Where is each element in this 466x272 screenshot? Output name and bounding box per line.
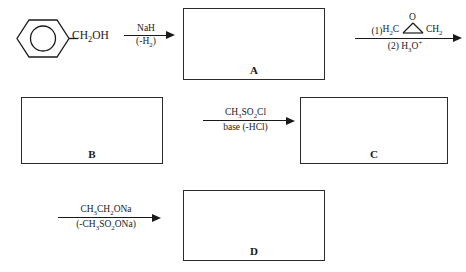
answer-box-d[interactable]: D bbox=[183, 190, 325, 261]
arrow-shaft-step-4 bbox=[355, 38, 455, 39]
epoxide-left-carbon-label: H2C bbox=[383, 25, 400, 37]
ethylene-oxide-icon: O H2C CH2 bbox=[387, 14, 439, 37]
answer-box-d-label: D bbox=[184, 245, 324, 257]
answer-box-c-label: C bbox=[301, 148, 447, 160]
reaction-arrow-step-4: (1) O H2C CH2 (2) H3O+ bbox=[355, 14, 455, 54]
benzyl-alcohol-structure: CH2OH bbox=[14, 17, 122, 61]
reagent-above-step-2: CH3SO2Cl bbox=[203, 107, 288, 120]
reaction-arrow-step-1: NaH (-H2) bbox=[124, 23, 168, 49]
reagent-above-step-3: CH3CH2ONa bbox=[58, 204, 154, 217]
answer-box-b[interactable]: B bbox=[21, 97, 163, 164]
reaction-scheme: CH2OH NaH (-H2) A (1) O H2C CH2 (2) H3O bbox=[0, 0, 466, 272]
benzene-ring-aromatic-circle-icon bbox=[14, 17, 74, 61]
reagent-below-step-1: (-H2) bbox=[124, 36, 168, 49]
answer-box-c[interactable]: C bbox=[300, 97, 448, 164]
reagent-below-step-4: (2) H3O+ bbox=[355, 39, 455, 55]
epoxide-right-carbon-label: CH2 bbox=[426, 25, 443, 37]
answer-box-a[interactable]: A bbox=[183, 8, 325, 80]
answer-box-a-label: A bbox=[184, 64, 324, 76]
step-number-one: (1) bbox=[371, 26, 382, 37]
arrow-shaft-step-2 bbox=[203, 120, 288, 121]
reagent-above-step-4: (1) O H2C CH2 bbox=[355, 14, 455, 38]
reagent-above-step-1: NaH bbox=[124, 23, 168, 35]
arrow-shaft-step-1 bbox=[124, 35, 168, 36]
reaction-arrow-step-2: CH3SO2Cl base (-HCl) bbox=[203, 107, 288, 133]
hydroxymethyl-label: CH2OH bbox=[72, 30, 109, 45]
arrow-shaft-step-3 bbox=[58, 217, 154, 218]
reagent-below-step-2: base (-HCl) bbox=[203, 121, 288, 133]
reagent-below-step-3: (-CH3SO2ONa) bbox=[58, 218, 154, 231]
reaction-arrow-step-3: CH3CH2ONa (-CH3SO2ONa) bbox=[58, 204, 154, 232]
answer-box-b-label: B bbox=[22, 148, 162, 160]
